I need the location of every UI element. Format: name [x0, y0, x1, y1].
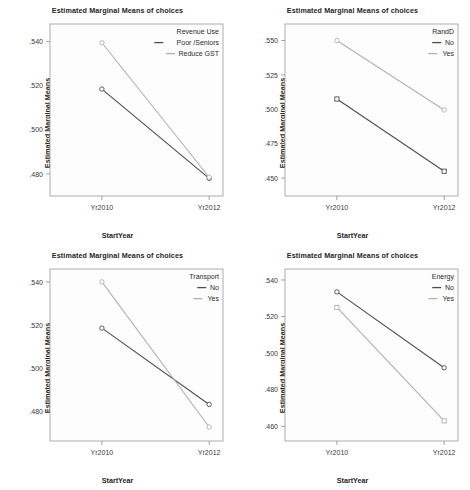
y-tick-label: .540 [29, 38, 43, 45]
legend-title: Transport [189, 273, 219, 281]
y-tick-label: .525 [264, 72, 278, 79]
y-tick-label: .500 [264, 106, 278, 113]
legend-title: Energy [432, 273, 455, 281]
y-tick-label: .480 [264, 386, 278, 393]
plot-area: .450.475.500.525.550Yr2010Yr2012RandDNoY… [235, 0, 470, 245]
y-tick-label: .520 [29, 82, 43, 89]
plot-area: .480.500.520.540Yr2010Yr2012TransportNoY… [0, 245, 235, 490]
x-tick-label: Yr2012 [198, 449, 221, 456]
data-point-marker [335, 305, 339, 309]
y-tick-label: .475 [264, 140, 278, 147]
data-point-marker [207, 175, 211, 179]
panel-bottom-right: Estimated Marginal Means of choices Esti… [235, 245, 470, 490]
legend-item-label[interactable]: No [445, 284, 454, 291]
data-point-marker [335, 97, 339, 101]
panel-bottom-left: Estimated Marginal Means of choices Esti… [0, 245, 235, 490]
data-point-marker [335, 38, 339, 42]
y-tick-label: .500 [264, 350, 278, 357]
data-point-marker [442, 366, 446, 370]
legend-item-label[interactable]: Yes [443, 295, 455, 302]
data-point-marker [335, 290, 339, 294]
y-tick-label: .520 [29, 322, 43, 329]
y-tick-label: .520 [264, 313, 278, 320]
x-tick-label: Yr2010 [326, 449, 349, 456]
x-tick-label: Yr2012 [433, 204, 456, 211]
x-tick-label: Yr2010 [326, 204, 349, 211]
legend-title: Revenue Use [177, 28, 220, 35]
panel-grid: Estimated Marginal Means of choices Esti… [0, 0, 470, 490]
data-point-marker [207, 402, 211, 406]
data-point-marker [100, 326, 104, 330]
data-point-marker [207, 425, 211, 429]
x-tick-label: Yr2012 [198, 204, 221, 211]
y-tick-label: .500 [29, 365, 43, 372]
panel-top-right: Estimated Marginal Means of choices Esti… [235, 0, 470, 245]
x-axis-title: StartYear [0, 231, 235, 240]
data-point-marker [442, 108, 446, 112]
x-axis-title: StartYear [0, 476, 235, 485]
data-point-marker [442, 169, 446, 173]
legend-item-label[interactable]: Yes [443, 50, 455, 57]
x-axis-title: StartYear [235, 476, 470, 485]
data-point-marker [100, 41, 104, 45]
legend-item-label[interactable]: Yes [208, 295, 220, 302]
y-tick-label: .500 [29, 126, 43, 133]
panel-top-left: Estimated Marginal Means of choices Esti… [0, 0, 235, 245]
data-point-marker [100, 87, 104, 91]
legend-item-label[interactable]: No [445, 39, 454, 46]
plot-area: .480.500.520.540Yr2010Yr2012Revenue UseP… [0, 0, 235, 245]
plot-area: .460.480.500.520.540Yr2010Yr2012EnergyNo… [235, 245, 470, 490]
y-tick-label: .540 [264, 277, 278, 284]
legend-item-label[interactable]: Poor /Seniors [177, 39, 220, 46]
legend-title: RandD [432, 28, 454, 35]
legend-item-label[interactable]: No [210, 284, 219, 291]
y-tick-label: .550 [264, 37, 278, 44]
data-point-marker [100, 280, 104, 284]
x-tick-label: Yr2012 [433, 449, 456, 456]
y-tick-label: .480 [29, 171, 43, 178]
legend-item-label[interactable]: Reduce GST [179, 50, 220, 57]
x-tick-label: Yr2010 [91, 449, 114, 456]
y-tick-label: .450 [264, 175, 278, 182]
data-point-marker [442, 419, 446, 423]
x-tick-label: Yr2010 [91, 204, 114, 211]
y-tick-label: .460 [264, 423, 278, 430]
y-tick-label: .480 [29, 408, 43, 415]
x-axis-title: StartYear [235, 231, 470, 240]
y-tick-label: .540 [29, 279, 43, 286]
